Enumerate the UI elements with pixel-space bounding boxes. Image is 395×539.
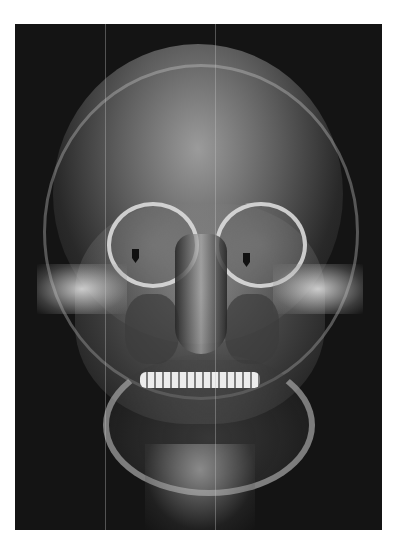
teeth [140, 372, 260, 388]
skull-radiograph [15, 24, 382, 530]
scan-artifact-line [105, 24, 106, 530]
right-maxillary-sinus [225, 294, 279, 364]
left-maxillary-sinus [125, 294, 179, 364]
nasal-cavity [175, 234, 227, 354]
left-zygoma [37, 264, 127, 314]
arrow-marker-icon [132, 249, 139, 263]
arrow-marker-icon [243, 253, 250, 267]
cervical-spine [145, 444, 255, 530]
scan-artifact-line [215, 24, 216, 530]
right-zygoma [273, 264, 363, 314]
